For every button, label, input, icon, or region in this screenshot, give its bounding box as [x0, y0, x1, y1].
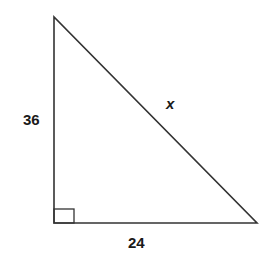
right-triangle-diagram	[0, 0, 279, 265]
right-angle-marker	[54, 209, 74, 223]
hypotenuse-label: x	[166, 96, 174, 111]
triangle-outline	[54, 17, 257, 223]
horizontal-leg-label: 24	[128, 235, 145, 250]
vertical-leg-label: 36	[23, 112, 40, 127]
